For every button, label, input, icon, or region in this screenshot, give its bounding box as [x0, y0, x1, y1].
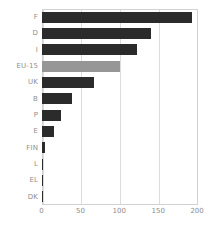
bar-l[interactable] [42, 159, 43, 170]
category-label-el: EL [0, 172, 38, 188]
category-label-uk: UK [0, 74, 38, 90]
category-label-f: F [0, 9, 38, 25]
bar-e[interactable] [42, 126, 54, 137]
category-label-i: I [0, 42, 38, 58]
value-axis: 0 50 100 150 200 [0, 207, 211, 221]
bar-f[interactable] [42, 12, 193, 23]
bar-i[interactable] [42, 44, 138, 55]
bar-b[interactable] [42, 93, 72, 104]
category-label-eu15: EU-15 [0, 58, 38, 74]
category-axis: F D I EU-15 UK B P E FIN L EL DK [0, 9, 38, 205]
bar-d[interactable] [42, 28, 151, 39]
bar-row [42, 91, 198, 107]
bar-row [42, 58, 198, 74]
bar-eu15[interactable] [42, 61, 120, 72]
xtick-label-150: 150 [152, 207, 165, 215]
category-label-d: D [0, 25, 38, 41]
bar-row [42, 42, 198, 58]
bar-row [42, 123, 198, 139]
bar-row [42, 140, 198, 156]
bar-dk[interactable] [42, 191, 43, 202]
xtick-label-100: 100 [113, 207, 126, 215]
bar-fin[interactable] [42, 142, 46, 153]
category-label-e: E [0, 123, 38, 139]
bar-row [42, 189, 198, 205]
category-label-b: B [0, 91, 38, 107]
category-label-p: P [0, 107, 38, 123]
xtick-label-50: 50 [76, 207, 85, 215]
bar-row [42, 74, 198, 90]
category-label-l: L [0, 156, 38, 172]
bar-row [42, 172, 198, 188]
bar-p[interactable] [42, 110, 62, 121]
xtick-label-200: 200 [190, 207, 203, 215]
bar-row [42, 25, 198, 41]
bar-uk[interactable] [42, 77, 94, 88]
bar-row [42, 107, 198, 123]
bar-row [42, 156, 198, 172]
xtick-label-0: 0 [39, 207, 43, 215]
bar-row [42, 9, 198, 25]
bar-chart: F D I EU-15 UK B P E FIN L EL DK 0 50 10… [0, 0, 211, 240]
bar-el[interactable] [42, 175, 43, 186]
category-label-fin: FIN [0, 140, 38, 156]
category-label-dk: DK [0, 189, 38, 205]
bars-layer [42, 9, 198, 205]
